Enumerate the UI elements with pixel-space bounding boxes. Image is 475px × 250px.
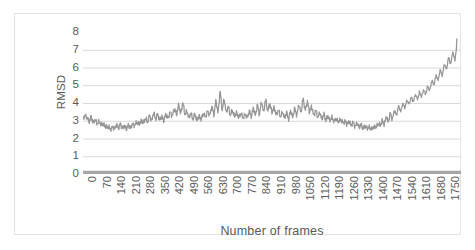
y-tick-label: 4 <box>59 97 79 109</box>
x-tick-label: 770 <box>247 176 258 194</box>
x-tick-label: 1330 <box>363 176 374 200</box>
x-tick-label: 910 <box>276 176 287 194</box>
x-tick-label: 70 <box>102 176 113 188</box>
x-tick-label: 140 <box>116 176 127 194</box>
y-tick-label: 2 <box>59 133 79 145</box>
x-tick-label: 1750 <box>450 176 461 200</box>
x-tick-label: 1470 <box>392 176 403 200</box>
x-axis-tick-labels: 0701402102803504204905606307007708409109… <box>83 176 461 222</box>
x-tick-label: 1680 <box>436 176 447 200</box>
x-tick-label: 420 <box>174 176 185 194</box>
rmsd-line-series <box>83 32 461 174</box>
y-tick-label: 6 <box>59 62 79 74</box>
x-tick-label: 1540 <box>407 176 418 200</box>
x-tick-label: 490 <box>189 176 200 194</box>
x-tick-label: 980 <box>291 176 302 194</box>
x-tick-label: 280 <box>145 176 156 194</box>
chart-container: RMSD 012345678 0701402102803504204905606… <box>14 13 461 235</box>
y-tick-label: 3 <box>59 115 79 127</box>
x-axis-title: Number of frames <box>83 224 461 238</box>
x-tick-label: 1050 <box>305 176 316 200</box>
x-tick-label: 630 <box>218 176 229 194</box>
x-tick-label: 1260 <box>349 176 360 200</box>
x-tick-label: 700 <box>232 176 243 194</box>
x-tick-label: 1400 <box>378 176 389 200</box>
x-tick-label: 210 <box>131 176 142 194</box>
plot-area <box>83 32 461 174</box>
y-axis-tick-labels: 012345678 <box>59 32 79 174</box>
x-tick-label: 1610 <box>421 176 432 200</box>
y-tick-label: 5 <box>59 80 79 92</box>
y-tick-label: 7 <box>59 44 79 56</box>
x-tick-label: 840 <box>261 176 272 194</box>
y-tick-label: 0 <box>59 168 79 180</box>
x-tick-label: 1120 <box>320 176 331 200</box>
x-tick-label: 350 <box>160 176 171 194</box>
y-tick-label: 8 <box>59 26 79 38</box>
y-tick-label: 1 <box>59 151 79 163</box>
x-tick-label: 0 <box>87 176 98 182</box>
x-tick-label: 560 <box>203 176 214 194</box>
x-tick-label: 1190 <box>334 176 345 200</box>
